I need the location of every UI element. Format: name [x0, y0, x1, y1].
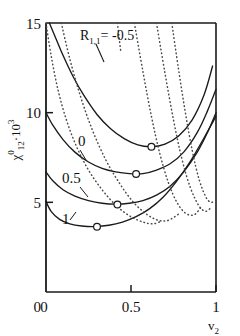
- minimum-marker-3: [94, 223, 101, 230]
- chart-svg: 15 10 5 0 0 0.5 1 v2 χ012·103 R1,1= -0.5: [0, 0, 240, 336]
- curve-2: [46, 113, 216, 204]
- minimum-marker-1: [133, 171, 140, 178]
- minimum-marker-2: [114, 201, 121, 208]
- curve-label-leader-1: [80, 187, 88, 197]
- curve-label-1: 0.5: [62, 170, 81, 186]
- x-axis-title-sub: 2: [215, 326, 220, 336]
- y-axis-title-factor-exp: 3: [6, 119, 16, 124]
- y-axis-title-sub: 12: [16, 141, 26, 150]
- x-tick-label-0.5: 0.5: [122, 299, 141, 315]
- minimum-markers: [94, 143, 155, 230]
- curve-label-leader-2: [70, 212, 76, 220]
- curve-4: [46, 23, 162, 224]
- r-annotation-subscript: 1,1: [89, 36, 100, 46]
- curve-7: [157, 23, 211, 211]
- y-tick-label-15: 15: [26, 16, 41, 32]
- svg-text:v2: v2: [208, 318, 219, 336]
- y-tick-labels: 15 10 5 0: [26, 16, 41, 315]
- minimum-marker-0: [148, 143, 155, 150]
- curve-label-2: 1: [62, 211, 70, 227]
- chart-figure: 15 10 5 0 0 0.5 1 v2 χ012·103 R1,1= -0.5: [0, 0, 240, 336]
- x-axis-title: v2: [208, 318, 219, 336]
- r-annotation-leader: [96, 44, 104, 62]
- curve-labels: 00.51: [62, 133, 88, 227]
- r-annotation-value: = -0.5: [101, 28, 135, 43]
- svg-text:χ012·103: χ012·103: [6, 119, 26, 162]
- x-tick-label-1: 1: [212, 299, 220, 315]
- curve-label-0: 0: [78, 133, 86, 149]
- y-axis-title-sup: 0: [6, 150, 16, 155]
- svg-text:R1,1= -0.5: R1,1= -0.5: [80, 28, 134, 46]
- y-axis-title: χ012·103: [6, 119, 26, 162]
- curve-6: [134, 23, 200, 215]
- curve-8: [172, 23, 215, 202]
- y-tick-label-10: 10: [26, 105, 41, 121]
- x-tick-labels: 0 0.5 1: [40, 299, 220, 315]
- data-curves: [46, 23, 216, 227]
- r-annotation: R1,1= -0.5: [80, 28, 134, 62]
- x-tick-label-0: 0: [40, 299, 48, 315]
- y-axis-title-factor: ·10: [8, 124, 23, 141]
- y-tick-label-5: 5: [34, 195, 42, 211]
